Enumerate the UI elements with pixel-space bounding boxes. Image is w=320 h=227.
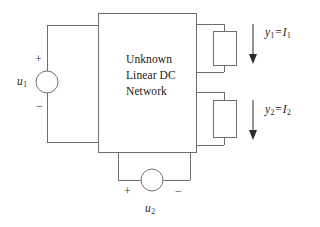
source-u1-minus-sign: −	[36, 100, 43, 112]
voltage-source-u1-symbol	[36, 71, 58, 93]
current-arrow-2-head	[249, 130, 257, 140]
source-u2-plus-sign: +	[124, 185, 131, 197]
unknown-network-box	[98, 13, 196, 152]
source-u1-label: u1	[17, 76, 27, 88]
load-resistor-1	[213, 31, 236, 65]
source-u1-plus-sign: +	[35, 53, 42, 65]
network-box-label-line-2: Linear DC	[126, 70, 176, 82]
current-arrow-1-head	[249, 54, 257, 64]
output-2-equals: =	[274, 103, 283, 115]
voltage-source-u2-symbol	[141, 169, 163, 191]
source-u2-label: u2	[145, 203, 155, 215]
output-label-2: y2=I2	[265, 104, 291, 116]
source-u2-subscript: 2	[151, 207, 155, 216]
output-1-current-subscript: 1	[287, 31, 291, 40]
source-u1-symbol-text: u	[17, 75, 23, 87]
output-2-current-subscript: 2	[287, 108, 291, 117]
output-1-equals: =	[274, 26, 283, 38]
circuit-diagram-figure: Unknown Linear DC Network + − u1 + − u2 …	[0, 0, 320, 227]
source-u2-symbol-text: u	[145, 202, 151, 214]
output-label-1: y1=I1	[265, 27, 291, 39]
source-u1-subscript: 1	[23, 80, 27, 89]
network-box-label-line-3: Network	[126, 86, 167, 98]
load-resistor-2	[213, 100, 236, 137]
network-box-label-line-1: Unknown	[126, 54, 172, 66]
source-u2-minus-sign: −	[175, 185, 182, 197]
